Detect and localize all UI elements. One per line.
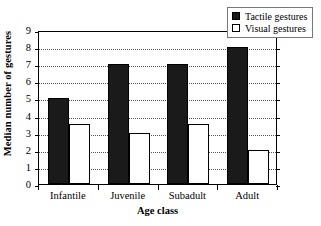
y-tick-mark <box>35 135 39 136</box>
legend-label-visual: Visual gestures <box>245 23 306 34</box>
bar-subadult-tactile <box>167 64 188 184</box>
y-tick-mark <box>35 83 39 84</box>
y-tick-label: 5 <box>13 94 31 104</box>
legend-swatch-open-icon <box>232 24 240 32</box>
y-tick-mark <box>35 118 39 119</box>
y-tick-mark <box>35 100 39 101</box>
x-tick-label-adult: Adult <box>217 189 277 202</box>
y-tick-label: 2 <box>13 146 31 156</box>
y-tick-label: 4 <box>13 112 31 122</box>
bar-adult-tactile <box>227 47 248 184</box>
y-axis-tick-labels: 0123456789 <box>16 31 34 185</box>
bar-subadult-visual <box>188 124 209 184</box>
x-axis-title: Age class <box>38 205 277 216</box>
chart-legend: Tactile gestures Visual gestures <box>227 7 313 38</box>
y-tick-mark-right <box>276 49 280 50</box>
y-tick-mark-right <box>276 118 280 119</box>
y-tick-label: 0 <box>13 180 31 190</box>
y-tick-mark-right <box>276 100 280 101</box>
legend-item-visual: Visual gestures <box>232 22 307 34</box>
y-tick-mark <box>35 49 39 50</box>
y-tick-label: 7 <box>13 60 31 70</box>
bar-juvenile-tactile <box>108 64 129 184</box>
x-axis-tick-labels: InfantileJuvenileSubadultAdult <box>38 189 277 205</box>
legend-swatch-filled-icon <box>232 12 240 20</box>
y-tick-mark <box>35 66 39 67</box>
y-tick-label: 9 <box>13 26 31 36</box>
bar-infantile-visual <box>69 124 90 184</box>
y-tick-label: 6 <box>13 77 31 87</box>
y-tick-label: 3 <box>13 129 31 139</box>
y-tick-mark <box>35 169 39 170</box>
y-tick-mark-right <box>276 83 280 84</box>
x-group-separator <box>277 185 278 190</box>
x-tick-label-juvenile: Juvenile <box>98 189 158 202</box>
y-tick-label: 1 <box>13 163 31 173</box>
y-tick-mark-right <box>276 169 280 170</box>
x-tick-label-subadult: Subadult <box>158 189 218 202</box>
y-tick-label: 8 <box>13 43 31 53</box>
y-tick-mark <box>35 152 39 153</box>
plot-area <box>38 31 277 185</box>
legend-label-tactile: Tactile gestures <box>245 11 307 22</box>
y-tick-mark-right <box>276 66 280 67</box>
y-axis-title-text: Median number of gestures <box>3 30 14 156</box>
legend-item-tactile: Tactile gestures <box>232 10 307 22</box>
bar-infantile-tactile <box>48 98 69 184</box>
bar-adult-visual <box>248 150 269 184</box>
y-tick-mark-right <box>276 152 280 153</box>
y-tick-mark <box>35 32 39 33</box>
y-tick-mark-right <box>276 135 280 136</box>
x-tick-label-infantile: Infantile <box>38 189 98 202</box>
bar-juvenile-visual <box>129 133 150 184</box>
bar-chart-figure: Median number of gestures 0123456789 Inf… <box>0 0 321 226</box>
